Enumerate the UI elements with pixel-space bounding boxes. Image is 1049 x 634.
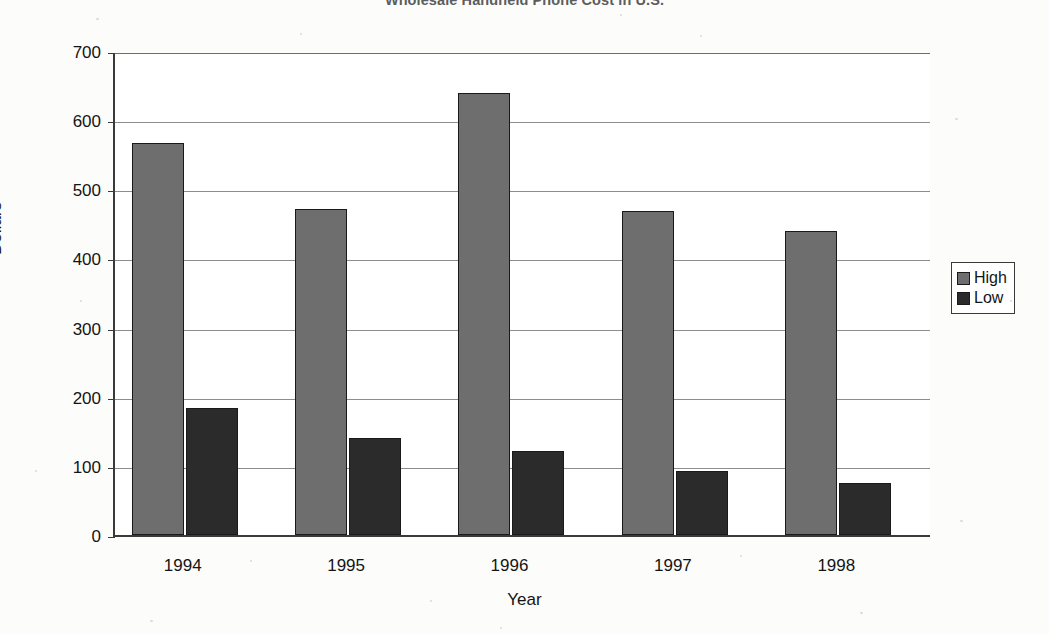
x-axis-category-label: 1995 <box>327 556 365 576</box>
bar-group <box>115 53 278 535</box>
bar-high-1995 <box>295 209 347 535</box>
y-tick-mark-300 <box>108 330 115 331</box>
legend-item-low: Low <box>957 288 1007 308</box>
scan-speckle <box>35 470 37 472</box>
x-axis-category-label: 1998 <box>817 556 855 576</box>
y-axis-tick-label: 100 <box>55 458 101 478</box>
y-axis-tick-label: 500 <box>55 181 101 201</box>
scan-speckle <box>150 620 153 622</box>
scan-speckle <box>960 520 963 522</box>
bar-low-1994 <box>186 408 238 535</box>
chart-canvas: Wholesale Handheld Phone Cost in U.S. Do… <box>0 0 1049 634</box>
legend-label: Low <box>974 290 1003 306</box>
bar-high-1996 <box>458 93 510 535</box>
legend-item-high: High <box>957 268 1007 288</box>
bar-high-1994 <box>132 143 184 535</box>
y-tick-mark-400 <box>108 260 115 261</box>
y-axis-tick-label: 200 <box>55 389 101 409</box>
scan-speckle <box>860 612 863 614</box>
y-axis-tick-label: 600 <box>55 112 101 132</box>
x-axis-category-label: 1994 <box>164 556 202 576</box>
chart-legend: HighLow <box>951 262 1015 314</box>
chart-title: Wholesale Handheld Phone Cost in U.S. <box>0 0 1049 5</box>
bar-group <box>769 53 932 535</box>
y-axis-tick-label: 700 <box>55 43 101 63</box>
bar-low-1995 <box>349 438 401 535</box>
x-axis-category-label: 1996 <box>491 556 529 576</box>
scan-speckle <box>620 14 622 16</box>
bar-low-1996 <box>512 451 564 535</box>
y-axis-title: Dollars <box>0 202 6 255</box>
y-tick-mark-700 <box>108 53 115 54</box>
y-tick-mark-100 <box>108 468 115 469</box>
y-tick-mark-600 <box>108 122 115 123</box>
bar-low-1997 <box>676 471 728 535</box>
y-axis-tick-label: 400 <box>55 250 101 270</box>
legend-swatch-icon <box>957 272 970 285</box>
bar-group <box>605 53 768 535</box>
bar-low-1998 <box>839 483 891 535</box>
scan-speckle <box>80 300 82 302</box>
plot-area <box>113 53 930 537</box>
y-axis-tick-label: 300 <box>55 320 101 340</box>
bar-high-1997 <box>622 211 674 535</box>
bar-group <box>442 53 605 535</box>
y-tick-mark-200 <box>108 399 115 400</box>
bar-series-container <box>115 53 930 535</box>
y-axis-tick-label: 0 <box>55 527 101 547</box>
scan-speckle <box>96 18 99 20</box>
scan-speckle <box>955 118 958 120</box>
scan-speckle <box>300 33 302 35</box>
legend-label: High <box>974 270 1007 286</box>
scan-speckle <box>700 35 702 37</box>
bar-group <box>278 53 441 535</box>
x-axis-title: Year <box>0 590 1049 610</box>
scan-speckle <box>250 560 252 562</box>
x-axis-category-label: 1997 <box>654 556 692 576</box>
legend-swatch-icon <box>957 292 970 305</box>
y-tick-mark-500 <box>108 191 115 192</box>
bar-high-1998 <box>785 231 837 535</box>
y-tick-mark-0 <box>108 537 115 538</box>
scan-speckle <box>500 627 502 629</box>
scan-speckle <box>740 555 742 557</box>
